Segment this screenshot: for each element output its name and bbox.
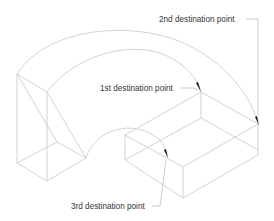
right-box [125,92,258,198]
label-2nd-destination: 2nd destination point [159,15,235,24]
label-3rd-destination: 3rd destination point [71,202,145,211]
leader-1st [180,88,198,90]
label-1st-destination: 1st destination point [100,84,174,93]
left-box [17,74,86,181]
diagram-canvas: 1st destination point 2nd destination po… [0,0,274,221]
leader-2nd [246,19,258,116]
leader-lines [152,19,258,206]
leader-3rd [152,160,166,206]
outer-arc [17,30,258,124]
arrow-1st-icon [196,82,201,92]
path-arcs [17,30,258,158]
